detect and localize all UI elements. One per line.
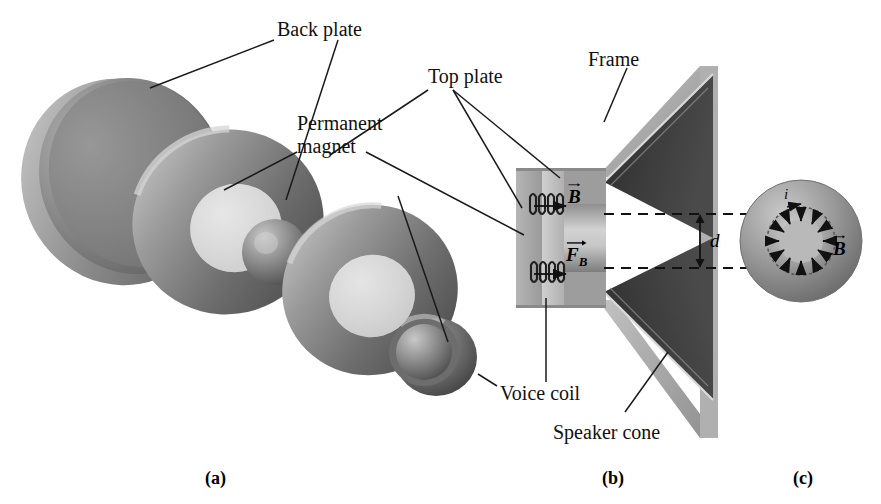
vector-b-field-radial: B (833, 238, 846, 260)
vector-magnetic-force: FB (566, 244, 587, 270)
label-gap-dimension: d (710, 230, 720, 252)
vector-f-symbol: F (566, 244, 579, 265)
panel-caption-b: (b) (602, 468, 624, 489)
label-frame: Frame (588, 48, 639, 71)
label-top-plate: Top plate (428, 65, 503, 88)
vector-arrow-overbar (833, 233, 846, 240)
vector-b-symbol-c: B (833, 238, 846, 259)
vector-f-subscript: B (579, 254, 588, 269)
panel-caption-a: (a) (205, 468, 226, 489)
label-permanent-magnet-line1: Permanent (297, 112, 383, 135)
vector-arrow-overbar (566, 239, 587, 246)
vector-arrow-overbar (568, 181, 581, 188)
vector-b-symbol: B (568, 186, 581, 207)
label-current: i (784, 186, 788, 203)
voice-coil-part (389, 316, 477, 396)
label-voice-coil: Voice coil (500, 382, 580, 405)
vector-b-field-gap: B (568, 186, 581, 208)
label-back-plate: Back plate (277, 18, 362, 41)
panel-caption-c: (c) (793, 468, 813, 489)
magnet-block-section (516, 168, 606, 308)
label-permanent-magnet-line2: magnet (297, 135, 356, 158)
label-speaker-cone: Speaker cone (553, 421, 660, 444)
